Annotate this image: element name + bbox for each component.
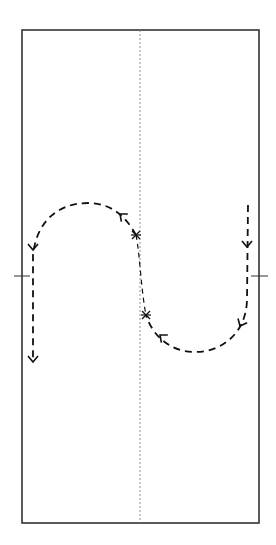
arrow-down-icon [28, 244, 38, 250]
arrow-down-left-icon [235, 318, 247, 328]
frame-rectangle [22, 30, 259, 523]
center-connector-path [136, 235, 146, 315]
upper-left-loop-path [33, 203, 136, 362]
diagram-canvas [0, 0, 276, 545]
motion-paths [33, 203, 248, 362]
right-lower-loop-path [146, 205, 248, 352]
